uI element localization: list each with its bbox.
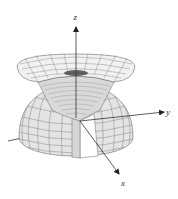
y-axis-label: y (165, 107, 170, 117)
z-axis-label: z (73, 12, 78, 22)
3d-surface-figure: z y x (0, 0, 178, 199)
x-axis-label: x (120, 178, 125, 188)
